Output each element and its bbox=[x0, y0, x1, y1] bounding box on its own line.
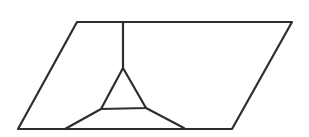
geometry-figure bbox=[0, 0, 309, 137]
diagram-canvas bbox=[0, 0, 309, 137]
right-leg-segment bbox=[146, 108, 184, 128]
inner-triangle bbox=[101, 68, 146, 109]
left-leg-segment bbox=[65, 109, 101, 129]
